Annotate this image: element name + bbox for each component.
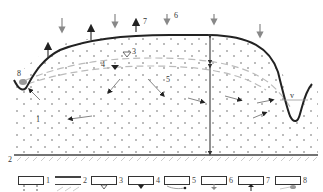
aquifer-cross-section: 8 2 6 7 3 4 5 1 v [0,0,323,192]
water-table-filled-icon [128,176,154,185]
label-6: 6 [174,11,178,20]
legend-number: 7 [266,175,270,186]
flow-line-icon [164,176,190,185]
dotted-sediment-icon [18,176,44,185]
label-4: 4 [101,60,105,69]
label-3: 3 [132,47,136,56]
legend-number: 5 [192,175,196,186]
label-v: v [290,91,294,100]
label-5: 5 [166,75,170,84]
discharge-zone-icon [19,79,27,85]
legend: 1 2 3 4 5 6 7 8 [18,175,318,189]
base-hatch [14,156,318,161]
legend-number: 4 [156,175,160,186]
label-7: 7 [143,17,147,26]
label-8: 8 [17,69,21,78]
label-1: 1 [36,115,40,124]
evaporation-arrow-icon [238,176,264,185]
legend-number: 2 [83,175,87,186]
legend-number: 1 [46,175,50,186]
aquifer-body [14,35,318,155]
infiltration-arrow-icon [201,176,227,185]
discharge-zone-icon [275,176,301,185]
legend-number: 6 [229,175,233,186]
label-2: 2 [8,155,12,164]
impermeable-base-icon [55,176,81,185]
legend-number: 8 [303,175,307,186]
legend-number: 3 [119,175,123,186]
water-table-open-icon [91,176,117,185]
